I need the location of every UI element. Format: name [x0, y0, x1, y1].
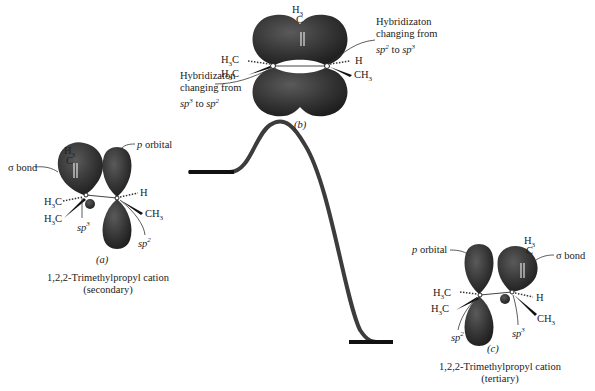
- b-ch3-label: CH3: [354, 69, 372, 85]
- c-h-label: H: [536, 292, 544, 304]
- diagram-canvas: [0, 0, 595, 391]
- a-h3c-upper-label: H3C: [44, 196, 62, 212]
- b-hybrid-left-note: Hybridizaton changing from sp3 to sp2: [180, 70, 242, 110]
- b-hybrid-right-note: Hybridizaton changing from sp2 to sp3: [376, 16, 438, 56]
- a-p-orbital-label: p orbital: [137, 139, 172, 151]
- a-h3c-lower-label: H3C: [44, 213, 62, 229]
- a-h-label: H: [140, 187, 148, 199]
- a-sigma-bond-label: σ bond: [8, 162, 37, 174]
- c-sp2-label: sp2: [451, 328, 464, 344]
- b-panel-tag: (b): [294, 119, 306, 131]
- a-sp2-label: sp2: [138, 234, 151, 250]
- c-caption: 1,2,2-Trimethylpropyl cation (tertiary): [430, 361, 570, 385]
- b-h-label: H: [355, 55, 363, 67]
- a-c-label: C: [66, 155, 73, 167]
- c-h3c-upper-label: H3C: [433, 287, 451, 303]
- c-p-orbital-label: p orbital: [412, 244, 447, 256]
- c-sigma-bond-label: σ bond: [556, 250, 585, 262]
- c-cation-type: (tertiary): [430, 373, 570, 385]
- c-cation-name: 1,2,2-Trimethylpropyl cation: [430, 361, 570, 373]
- a-panel-tag: (a): [96, 254, 108, 266]
- a-cation-type: (secondary): [38, 284, 178, 296]
- c-h3c-lower-label: H3C: [431, 303, 449, 319]
- a-ch3-label: CH3: [145, 208, 163, 224]
- a-sp3-label: sp3: [77, 218, 90, 234]
- c-c-label: C: [526, 245, 533, 257]
- c-panel-tag: (c): [487, 343, 499, 355]
- energy-profile-curve: [189, 122, 393, 342]
- c-ch3-label: CH3: [537, 313, 555, 329]
- a-cation-name: 1,2,2-Trimethylpropyl cation: [38, 272, 178, 284]
- b-c-label: C: [296, 14, 303, 26]
- a-caption: 1,2,2-Trimethylpropyl cation (secondary): [38, 272, 178, 296]
- c-sp3-label: sp3: [512, 324, 525, 340]
